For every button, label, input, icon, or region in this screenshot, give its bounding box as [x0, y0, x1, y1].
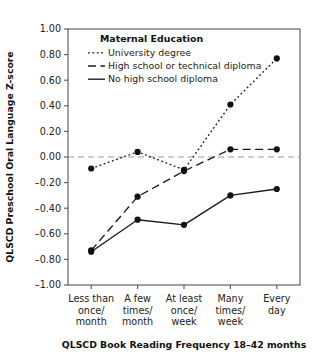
- data-point: [88, 165, 94, 171]
- x-tick-label: week: [171, 316, 197, 327]
- legend-label-1: University degree: [108, 47, 191, 58]
- y-tick-label: –0.80: [35, 254, 61, 265]
- x-tick-label: Many: [217, 293, 243, 304]
- legend-label-2: High school or technical diploma: [108, 60, 261, 71]
- y-tick-label: 0.00: [40, 151, 61, 162]
- data-point: [88, 249, 94, 255]
- data-point: [135, 217, 141, 223]
- data-point: [135, 149, 141, 155]
- y-tick-label: 1.00: [40, 23, 61, 34]
- y-tick-label: 0.60: [40, 75, 61, 86]
- data-point: [181, 222, 187, 228]
- chart-figure: 1.000.800.600.400.200.00–0.20–0.40–0.60–…: [0, 0, 317, 353]
- data-point: [274, 55, 280, 61]
- x-tick-label: once/: [78, 305, 105, 316]
- x-tick-label: A few: [124, 293, 151, 304]
- x-tick-label: times/: [123, 305, 154, 316]
- x-tick-label: At least: [166, 293, 203, 304]
- x-tick-label: week: [218, 316, 244, 327]
- x-tick-label: times/: [215, 305, 246, 316]
- data-point: [274, 146, 280, 152]
- data-point: [181, 168, 187, 174]
- y-tick-label: –1.00: [35, 279, 61, 290]
- data-point: [227, 192, 233, 198]
- y-axis-title: QLSCD Preschool Oral Language Z-score: [4, 51, 15, 262]
- x-tick-label: once/: [171, 305, 198, 316]
- line-chart: 1.000.800.600.400.200.00–0.20–0.40–0.60–…: [0, 0, 317, 353]
- y-tick-label: 0.80: [40, 49, 61, 60]
- data-point: [227, 101, 233, 107]
- x-tick-label: day: [268, 305, 286, 316]
- data-point: [227, 146, 233, 152]
- legend-title: Maternal Education: [100, 33, 203, 44]
- y-tick-label: –0.60: [35, 228, 61, 239]
- data-point: [135, 194, 141, 200]
- x-axis-title: QLSCD Book Reading Frequency 18–42 month…: [62, 339, 307, 350]
- x-tick-label: month: [76, 316, 107, 327]
- data-point: [274, 186, 280, 192]
- legend-label-3: No high school diploma: [108, 73, 218, 84]
- y-tick-label: 0.20: [40, 126, 61, 137]
- y-tick-label: –0.20: [35, 177, 61, 188]
- x-tick-label: Every: [263, 293, 291, 304]
- y-tick-label: –0.40: [35, 203, 61, 214]
- x-tick-label: month: [122, 316, 153, 327]
- y-tick-label: 0.40: [40, 100, 61, 111]
- x-tick-label: Less than: [68, 293, 114, 304]
